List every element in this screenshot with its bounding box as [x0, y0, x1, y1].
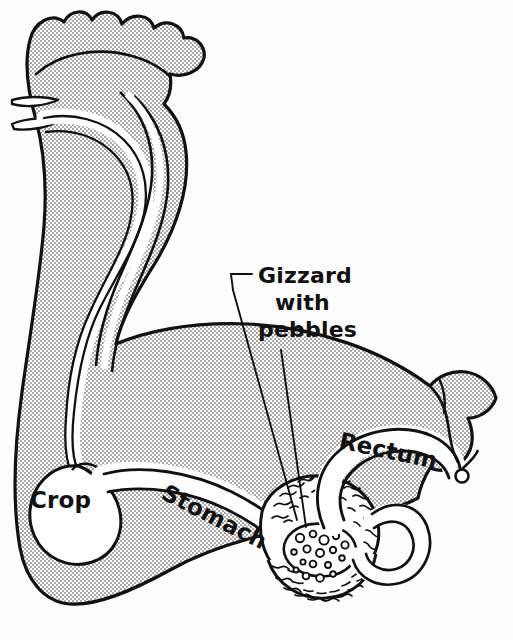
figure-root: Gizzard with pebbles Crop Stomach Rectum	[0, 0, 513, 640]
chicken-digestive-diagram: Gizzard with pebbles Crop Stomach Rectum	[0, 0, 513, 640]
label-gizzard-with: with	[275, 290, 330, 315]
label-crop: Crop	[30, 487, 91, 513]
label-gizzard-pebbles: pebbles	[258, 317, 357, 342]
label-gizzard: Gizzard	[258, 263, 352, 288]
